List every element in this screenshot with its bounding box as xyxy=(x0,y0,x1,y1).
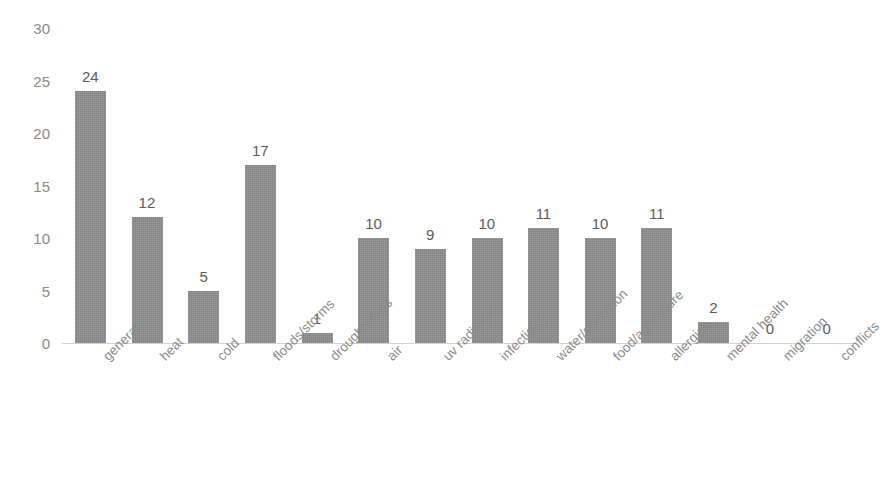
x-axis-label: conflicts xyxy=(837,353,848,364)
x-axis-label: mental health xyxy=(723,353,734,364)
x-axis-label: floods/storms xyxy=(270,353,281,364)
bar[interactable] xyxy=(132,217,163,343)
bar[interactable] xyxy=(415,249,446,344)
chart-title-cropped xyxy=(60,0,620,4)
x-axis-label: air xyxy=(384,353,395,364)
y-axis-tick-0: 0 xyxy=(0,336,50,351)
bar[interactable] xyxy=(245,165,276,344)
bars-layer: 2412517110910111011200 xyxy=(62,28,855,343)
bar-group[interactable]: 17 xyxy=(232,28,289,343)
bar-group[interactable]: 1 xyxy=(289,28,346,343)
bar-value-label: 17 xyxy=(232,143,289,158)
x-axis-label: food/agriculture xyxy=(610,353,621,364)
x-axis-label: water/sanitation xyxy=(553,353,564,364)
bar-value-label: 9 xyxy=(402,227,459,242)
x-axis: generalheatcoldfloods/stormsdroughts/fir… xyxy=(62,349,855,474)
bar-group[interactable]: 10 xyxy=(345,28,402,343)
bar-group[interactable]: 12 xyxy=(119,28,176,343)
x-axis-label: heat xyxy=(157,353,168,364)
bar-value-label: 10 xyxy=(459,216,516,231)
bar-group[interactable]: 11 xyxy=(515,28,572,343)
y-axis-tick-5: 5 xyxy=(0,283,50,298)
x-axis-label: infectious xyxy=(497,353,508,364)
y-axis-tick-10: 10 xyxy=(0,231,50,246)
bar-value-label: 10 xyxy=(572,216,629,231)
bar-group[interactable]: 0 xyxy=(798,28,855,343)
x-axis-label: droughts/fires xyxy=(327,353,338,364)
y-axis-tick-20: 20 xyxy=(0,126,50,141)
y-axis-tick-25: 25 xyxy=(0,73,50,88)
bar-value-label: 12 xyxy=(119,195,176,210)
bar-value-label: 11 xyxy=(628,206,685,221)
bar-group[interactable]: 2 xyxy=(685,28,742,343)
bar-group[interactable]: 9 xyxy=(402,28,459,343)
y-axis-tick-15: 15 xyxy=(0,178,50,193)
bar-value-label: 5 xyxy=(175,269,232,284)
bar[interactable] xyxy=(188,291,219,344)
bar-value-label: 2 xyxy=(685,300,742,315)
x-axis-label: general xyxy=(100,353,111,364)
y-axis-tick-30: 30 xyxy=(0,21,50,36)
bar-value-label: 10 xyxy=(345,216,402,231)
bar-chart: 302520151050 2412517110910111011200 gene… xyxy=(0,0,884,480)
x-axis-label: uv radiation xyxy=(440,353,451,364)
bar-group[interactable]: 0 xyxy=(742,28,799,343)
bar-group[interactable]: 10 xyxy=(459,28,516,343)
bar-group[interactable]: 5 xyxy=(175,28,232,343)
x-axis-label: allergies xyxy=(667,353,678,364)
bar-group[interactable]: 24 xyxy=(62,28,119,343)
bar-value-label: 24 xyxy=(62,69,119,84)
bar-value-label: 11 xyxy=(515,206,572,221)
x-axis-label: migration xyxy=(780,353,791,364)
x-axis-label: cold xyxy=(214,353,225,364)
bar[interactable] xyxy=(75,91,106,343)
